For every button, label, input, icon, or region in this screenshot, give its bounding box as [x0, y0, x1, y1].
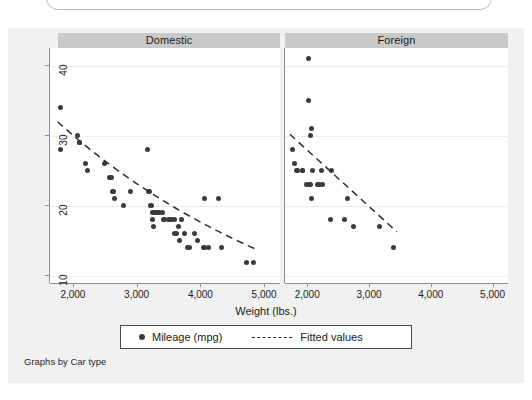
x-axis-line: [50, 283, 280, 284]
y-axis-tick-label: 30: [58, 134, 69, 156]
dot-marker-icon: [139, 334, 145, 340]
legend-item-mileage: Mileage (mpg): [139, 331, 222, 343]
x-axis-tick-label: 3,000: [356, 289, 381, 300]
stata-graph-region: Domestic Foreign 102030402,0003,0004,000…: [8, 28, 524, 383]
x-axis-title: Weight (lbs.): [8, 305, 524, 317]
x-axis-tick: [73, 283, 74, 287]
legend-label-fitted: Fitted values: [300, 331, 362, 343]
chart-legend: Mileage (mpg) Fitted values: [120, 325, 412, 349]
x-axis-tick: [137, 283, 138, 287]
x-axis-tick: [307, 283, 308, 287]
y-axis-tick-label: 40: [58, 64, 69, 86]
window-frame: [46, 0, 492, 10]
x-axis-tick: [369, 283, 370, 287]
y-axis-line: [49, 48, 50, 283]
dashed-line-icon: [252, 337, 292, 338]
y-axis-tick: [45, 135, 50, 136]
x-axis-tick-label: 2,000: [60, 289, 85, 300]
x-axis-tick-label: 5,000: [252, 289, 277, 300]
x-axis-line: [285, 283, 508, 284]
x-axis-tick: [493, 283, 494, 287]
legend-label-mileage: Mileage (mpg): [152, 331, 222, 343]
x-axis-tick-label: 2,000: [295, 289, 320, 300]
x-axis-tick-label: 5,000: [480, 289, 505, 300]
x-axis-tick: [200, 283, 201, 287]
x-axis-tick-label: 3,000: [124, 289, 149, 300]
y-axis-tick: [45, 275, 50, 276]
graphs-by-note: Graphs by Car type: [24, 356, 106, 367]
y-axis-tick-label: 20: [58, 204, 69, 226]
legend-item-fitted: Fitted values: [252, 331, 362, 343]
x-axis-tick: [431, 283, 432, 287]
y-axis-tick: [45, 65, 50, 66]
y-axis-tick: [45, 205, 50, 206]
x-axis-tick-label: 4,000: [418, 289, 443, 300]
x-axis-tick-label: 4,000: [188, 289, 213, 300]
x-axis-tick: [264, 283, 265, 287]
y-axis-line: [284, 48, 285, 283]
